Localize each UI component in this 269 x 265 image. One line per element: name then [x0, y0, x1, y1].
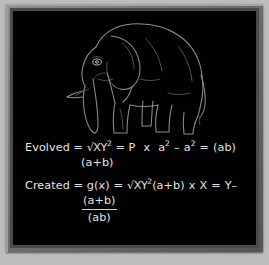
evolved-term-b: a — [184, 141, 191, 154]
elephant-illustration — [50, 13, 220, 139]
created-label: Created = — [25, 179, 87, 192]
evolved-denominator: (a+b) — [25, 156, 247, 170]
evolved-radical: √XY — [87, 141, 107, 154]
created-equals-1: = — [114, 179, 123, 192]
chalkboard-surface: Evolved = √XY2 = Pxa2–a2=(ab) (a+b) Crea… — [13, 11, 256, 245]
equations-area: Evolved = √XY2 = Pxa2–a2=(ab) (a+b) Crea… — [13, 141, 256, 234]
equation-created: Created = g(x)=√XY2(a+b)xX=Y– (a+b) (ab) — [25, 179, 247, 225]
created-function: g(x) — [87, 179, 110, 192]
picture-frame: Evolved = √XY2 = Pxa2–a2=(ab) (a+b) Crea… — [6, 4, 263, 252]
evolved-label: Evolved = — [25, 141, 87, 154]
evolved-mid: = P — [112, 141, 136, 154]
evolved-exponent-2: 2 — [165, 139, 170, 148]
created-fraction: (a+b) (ab) — [25, 194, 247, 225]
evolved-equals: = — [200, 141, 209, 154]
equation-evolved: Evolved = √XY2 = Pxa2–a2=(ab) (a+b) — [25, 141, 247, 170]
equation-evolved-line: Evolved = √XY2 = Pxa2–a2=(ab) — [25, 141, 247, 155]
evolved-times: x — [143, 141, 150, 154]
created-equals-2: = — [211, 179, 220, 192]
elephant-svg — [50, 13, 220, 139]
evolved-result: (ab) — [213, 141, 236, 154]
fraction-block: (a+b) (ab) — [81, 194, 118, 225]
fraction-numerator: (a+b) — [81, 194, 118, 209]
created-radical: √XY — [127, 179, 147, 192]
created-group: (a+b) — [152, 179, 185, 192]
frame-inner-bevel: Evolved = √XY2 = Pxa2–a2=(ab) (a+b) Crea… — [10, 8, 259, 248]
created-times: x — [189, 179, 196, 192]
created-var-x: X — [199, 179, 207, 192]
page-root: Evolved = √XY2 = Pxa2–a2=(ab) (a+b) Crea… — [0, 0, 269, 265]
fraction-denominator: (ab) — [81, 210, 118, 225]
evolved-exponent-3: 2 — [191, 139, 196, 148]
equation-created-line: Created = g(x)=√XY2(a+b)xX=Y– — [25, 179, 247, 193]
created-var-y: Y– — [225, 179, 238, 192]
evolved-minus: – — [174, 141, 180, 154]
